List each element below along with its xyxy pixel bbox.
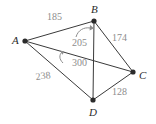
measure-label-bd: 205 [72, 38, 87, 48]
geometry-diagram: A B C D 185 205 174 300 238 128 [0, 0, 156, 124]
measure-label-ac: 300 [72, 58, 87, 68]
vertex-dot-b [91, 18, 96, 23]
leader-arrow-to-bd-icon [76, 28, 90, 37]
measure-label-ad: 238 [35, 70, 51, 82]
vertex-label-a: A [12, 35, 19, 46]
vertex-label-c: C [139, 70, 146, 81]
edge-bc [94, 21, 133, 72]
vertex-label-b: B [91, 4, 98, 15]
vertex-dot-a [22, 38, 27, 43]
measure-label-cd: 128 [112, 87, 127, 97]
measure-label-ab: 185 [47, 12, 62, 22]
measure-label-bc: 174 [112, 33, 127, 43]
vertex-dot-c [130, 69, 135, 74]
vertex-label-d: D [89, 107, 97, 118]
vertex-dot-d [90, 97, 95, 102]
leader-arrowhead-to-bd-icon [90, 25, 94, 31]
